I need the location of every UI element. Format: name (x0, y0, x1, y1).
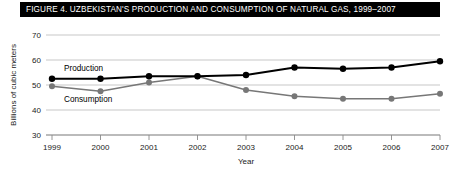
x-tick-label: 2003 (237, 143, 255, 152)
x-axis-tick-marks (52, 135, 440, 140)
data-point (437, 58, 443, 64)
data-point (291, 64, 297, 70)
data-point (388, 64, 394, 70)
x-axis-tick-labels: 199920002001200220032004200520062007 (43, 143, 449, 152)
data-point (243, 87, 249, 93)
y-axis-tick-labels: 3040506070 (32, 31, 41, 140)
x-tick-label: 2004 (286, 143, 304, 152)
y-tick-label: 40 (32, 106, 41, 115)
data-point (340, 96, 346, 102)
gridlines-group (46, 35, 440, 135)
line-chart: 3040506070 19992000200120022003200420052… (0, 17, 456, 174)
x-tick-label: 2000 (92, 143, 110, 152)
x-tick-label: 2006 (383, 143, 401, 152)
x-axis-group: 199920002001200220032004200520062007 (43, 135, 449, 152)
x-tick-label: 2001 (140, 143, 158, 152)
data-point (146, 73, 152, 79)
x-tick-label: 2005 (334, 143, 352, 152)
y-tick-label: 50 (32, 81, 41, 90)
data-point (49, 83, 55, 89)
series-label-consumption: Consumption (64, 95, 113, 104)
x-tick-label: 1999 (43, 143, 61, 152)
y-tick-label: 30 (32, 131, 41, 140)
data-point (437, 91, 443, 97)
data-point (389, 96, 395, 102)
chart-plot-area: 3040506070 19992000200120022003200420052… (0, 17, 456, 174)
series-production (49, 58, 443, 82)
y-tick-label: 60 (32, 56, 41, 65)
y-tick-label: 70 (32, 31, 41, 40)
data-point (292, 93, 298, 99)
data-point (97, 76, 103, 82)
data-point (243, 72, 249, 78)
data-point (49, 76, 55, 82)
x-axis-title: Year (238, 157, 255, 166)
x-tick-label: 2002 (189, 143, 207, 152)
data-point (146, 80, 152, 86)
figure-title-bar: FIGURE 4. UZBEKISTAN'S PRODUCTION AND CO… (20, 2, 440, 17)
figure-title: FIGURE 4. UZBEKISTAN'S PRODUCTION AND CO… (20, 5, 396, 14)
series-label-production: Production (64, 64, 104, 73)
x-tick-label: 2007 (431, 143, 449, 152)
y-axis-title: Billions of cubic meters (9, 44, 18, 126)
data-point (98, 88, 104, 94)
data-point (194, 73, 200, 79)
data-point (340, 66, 346, 72)
figure-container: FIGURE 4. UZBEKISTAN'S PRODUCTION AND CO… (0, 0, 456, 174)
